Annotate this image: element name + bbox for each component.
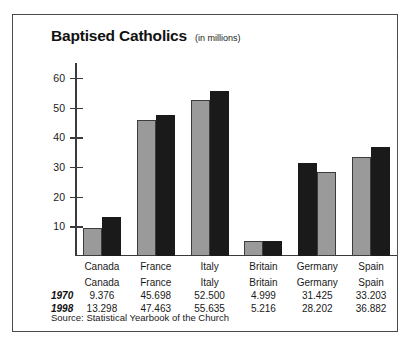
table-column-header: Italy xyxy=(200,277,218,288)
x-axis-category-labels: CanadaFranceItalyBritainGermanySpain xyxy=(75,261,398,275)
table-row: 19709.37645.69852.5004.99931.42533.203 xyxy=(51,290,398,303)
table-column-header: Spain xyxy=(358,277,384,288)
table-cell: 36.882 xyxy=(356,303,387,314)
chart-subtitle: (in millions) xyxy=(195,33,241,43)
bar-group xyxy=(352,63,390,256)
bar-group xyxy=(298,63,336,256)
table-cell: 9.376 xyxy=(89,290,114,301)
page-title: Baptised Catholics xyxy=(51,27,187,45)
category-label-france: France xyxy=(140,261,171,272)
bar-group xyxy=(191,63,229,256)
bar-1998-canada xyxy=(102,217,121,256)
y-tick-label: 50 xyxy=(53,102,65,114)
bars-layer xyxy=(75,63,398,256)
bar-1970-britain xyxy=(244,241,263,256)
bar-1970-canada xyxy=(83,228,102,256)
y-tick-label: 20 xyxy=(53,191,65,203)
bar-1998-spain xyxy=(371,147,390,257)
table-column-header: Canada xyxy=(84,277,119,288)
bar-1998-britain xyxy=(263,241,282,256)
table-cell: 4.999 xyxy=(251,290,276,301)
bar-group xyxy=(83,63,121,256)
category-label-canada: Canada xyxy=(84,261,119,272)
category-label-italy: Italy xyxy=(200,261,218,272)
chart-figure: Baptised Catholics (in millions) 1020304… xyxy=(12,14,398,332)
bar-1970-germany xyxy=(298,163,317,256)
y-tick-label: 10 xyxy=(53,220,65,232)
table-cell: 28.202 xyxy=(302,303,333,314)
table-column-header: France xyxy=(140,277,171,288)
bar-1998-italy xyxy=(210,91,229,256)
plot-area: 102030405060 xyxy=(75,63,398,256)
bar-1970-france xyxy=(137,120,156,256)
table-header-row: CanadaFranceItalyBritainGermanySpain xyxy=(51,277,398,290)
table-cell: 31.425 xyxy=(302,290,333,301)
data-table: CanadaFranceItalyBritainGermanySpain 197… xyxy=(51,277,398,316)
bar-1970-spain xyxy=(352,157,371,256)
table-cell: 45.698 xyxy=(140,290,171,301)
category-label-germany: Germany xyxy=(297,261,338,272)
bar-1998-france xyxy=(156,115,175,256)
table-column-header: Germany xyxy=(297,277,338,288)
y-tick-label: 60 xyxy=(53,72,65,84)
table-row-header: 1970 xyxy=(51,290,73,301)
source-note: Source: Statistical Yearbook of the Chur… xyxy=(51,312,229,323)
bar-1998-germany xyxy=(317,172,336,256)
table-cell: 52.500 xyxy=(194,290,225,301)
table-column-header: Britain xyxy=(249,277,277,288)
bar-1970-italy xyxy=(191,100,210,256)
category-label-britain: Britain xyxy=(249,261,277,272)
category-label-spain: Spain xyxy=(358,261,384,272)
bar-group xyxy=(137,63,175,256)
table-cell: 33.203 xyxy=(356,290,387,301)
y-tick-label: 40 xyxy=(53,131,65,143)
title-row: Baptised Catholics (in millions) xyxy=(51,27,240,45)
bar-group xyxy=(244,63,282,256)
y-tick-label: 30 xyxy=(53,161,65,173)
table-cell: 5.216 xyxy=(251,303,276,314)
